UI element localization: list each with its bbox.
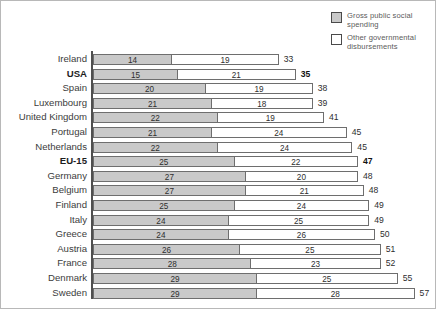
bar-segment-gross: 25 [93, 156, 235, 167]
bar-row-label: Portugal [1, 126, 87, 138]
bar-row-label: Ireland [1, 53, 87, 65]
bar-segment-gross: 24 [93, 215, 229, 226]
bar-segment-other: 19 [171, 54, 279, 65]
bar-segment-gross-value: 21 [94, 128, 211, 139]
bar-row: Greece242650 [1, 229, 436, 240]
bar-row-total: 57 [420, 288, 430, 299]
bar-segment-gross: 21 [93, 98, 212, 109]
bar-segment-gross: 20 [93, 83, 206, 94]
bar-row-total: 55 [403, 273, 413, 284]
chart-figure: Gross public social spending Other gover… [0, 0, 436, 309]
bar-row: Finland252449 [1, 200, 436, 211]
bar-row-label: Luxembourg [1, 97, 87, 109]
bar-row-label: Greece [1, 228, 87, 240]
bar-row-label: Spain [1, 82, 87, 94]
bar-segment-other: 21 [177, 69, 296, 80]
bar-segment-other-value: 18 [212, 99, 312, 110]
bar-segment-other: 23 [250, 258, 380, 269]
bar-segment-other: 22 [234, 156, 359, 167]
bar-row: Austria262551 [1, 244, 436, 255]
bar-row-total: 38 [318, 83, 328, 94]
bar-segment-gross: 29 [93, 288, 257, 299]
bar-segment-gross: 25 [93, 200, 235, 211]
bar-segment-other-value: 23 [251, 259, 379, 270]
bar-row-total: 35 [301, 69, 311, 80]
bar-row: Germany272048 [1, 171, 436, 182]
bar-segment-gross-value: 21 [94, 99, 211, 110]
bar-row-label: France [1, 257, 87, 269]
bar-segment-other-value: 22 [235, 157, 358, 168]
bar-segment-other-value: 25 [229, 216, 369, 227]
bar-row-label: United Kingdom [1, 111, 87, 123]
bar-segment-other-value: 25 [240, 245, 380, 256]
bar-row-label: Denmark [1, 272, 87, 284]
bar-row: Portugal212445 [1, 127, 436, 138]
bar-row-total: 49 [374, 215, 384, 226]
bar-segment-gross-value: 24 [94, 216, 228, 227]
bar-segment-other: 18 [211, 98, 313, 109]
bar-row: Sweden292857 [1, 288, 436, 299]
bar-row: Spain201938 [1, 83, 436, 94]
bar-segment-other-value: 26 [229, 230, 374, 241]
bar-row: USA152135 [1, 69, 436, 80]
bar-segment-other-value: 20 [246, 172, 357, 183]
bar-segment-gross-value: 22 [94, 113, 217, 124]
bar-segment-other: 24 [211, 127, 347, 138]
bar-row-total: 50 [380, 229, 390, 240]
bar-segment-gross: 21 [93, 127, 212, 138]
bar-segment-other: 19 [205, 83, 313, 94]
bar-segment-other-value: 19 [218, 113, 324, 124]
bar-segment-other: 25 [228, 215, 370, 226]
bar-row-label: USA [1, 68, 87, 80]
bar-segment-other-value: 24 [235, 201, 369, 212]
bar-row: Luxembourg211839 [1, 98, 436, 109]
bar-segment-gross-value: 27 [94, 186, 245, 197]
bar-row: Italy242549 [1, 215, 436, 226]
bar-row-total: 48 [363, 171, 373, 182]
bar-segment-gross-value: 28 [94, 259, 250, 270]
bar-segment-gross-value: 14 [94, 55, 171, 66]
bar-segment-other: 24 [217, 142, 353, 153]
bar-segment-gross-value: 25 [94, 157, 234, 168]
bar-row-total: 45 [357, 142, 367, 153]
bar-row-total: 49 [374, 200, 384, 211]
bar-segment-other: 20 [245, 171, 358, 182]
bar-segment-gross-value: 25 [94, 201, 234, 212]
bar-row: EU-15252247 [1, 156, 436, 167]
bar-segment-gross-value: 15 [94, 70, 177, 81]
bar-segment-gross-value: 26 [94, 245, 239, 256]
bar-row: United Kingdom221941 [1, 112, 436, 123]
bar-segment-other-value: 25 [257, 274, 397, 285]
bar-row-total: 33 [284, 54, 294, 65]
bar-segment-gross: 14 [93, 54, 172, 65]
bar-segment-gross: 15 [93, 69, 178, 80]
bar-row-total: 47 [363, 156, 373, 167]
bar-row: Belgium272148 [1, 185, 436, 196]
bar-segment-other: 26 [228, 229, 375, 240]
bar-segment-other-value: 28 [257, 289, 413, 300]
bar-row-total: 52 [386, 258, 396, 269]
bar-segment-other: 28 [256, 288, 414, 299]
bar-row-label: Germany [1, 170, 87, 182]
bar-row-label: Netherlands [1, 141, 87, 153]
bar-segment-gross-value: 22 [94, 143, 217, 154]
bar-row: France282352 [1, 258, 436, 269]
bar-segment-gross: 27 [93, 185, 246, 196]
bar-segment-other-value: 21 [178, 70, 295, 81]
bar-segment-gross: 22 [93, 142, 218, 153]
bar-segment-gross: 29 [93, 273, 257, 284]
bar-segment-gross-value: 29 [94, 289, 256, 300]
bar-segment-other: 24 [234, 200, 370, 211]
bar-row-total: 51 [386, 244, 396, 255]
bar-segment-other: 25 [256, 273, 398, 284]
bar-row: Denmark292555 [1, 273, 436, 284]
bar-segment-gross-value: 27 [94, 172, 245, 183]
bar-segment-other: 21 [245, 185, 364, 196]
bar-row-label: Belgium [1, 184, 87, 196]
bar-segment-other: 19 [217, 112, 325, 123]
bar-row-total: 41 [329, 112, 339, 123]
bar-row-label: EU-15 [1, 155, 87, 167]
bar-segment-gross: 28 [93, 258, 251, 269]
bar-segment-other-value: 19 [206, 84, 312, 95]
bar-row-label: Sweden [1, 287, 87, 299]
